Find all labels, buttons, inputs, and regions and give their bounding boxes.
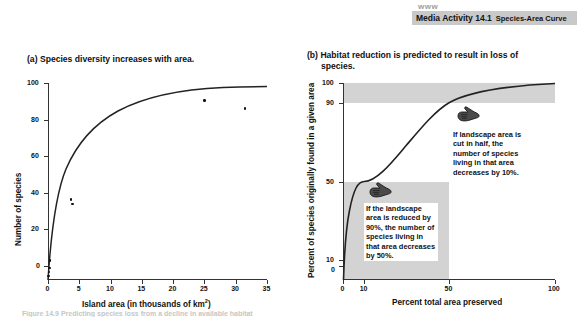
media-activity-title: Media Activity 14.1 <box>416 13 492 23</box>
panel-a-ytick-20: 20 <box>31 225 39 232</box>
panel-b-plot-area: If landscape area is cut in half, the nu… <box>343 83 555 280</box>
panel-a-caption: (a) Species diversity increases with are… <box>27 54 277 65</box>
panel-a-caption-text: Species diversity increases with area. <box>40 54 194 64</box>
panel-a-xtick-0: 0 <box>46 285 50 292</box>
panel-b-ytick-0: 0 <box>331 266 335 273</box>
data-point <box>203 99 206 102</box>
pointing-hand-icon <box>367 180 393 200</box>
panel-a-xtick-20: 20 <box>169 285 177 292</box>
panel-a-x-axis-title: Island area (in thousands of km2) <box>82 298 211 309</box>
panel-a-ytick-60: 60 <box>31 152 39 159</box>
panel-b-ytick-10: 10 <box>326 256 334 263</box>
panel-b-xtick-0: 0 <box>341 285 345 292</box>
panel-a-chart: Number of species 100 80 60 40 20 0 <box>0 70 290 317</box>
panel-b-caption-text: Habitat reduction is predicted to result… <box>320 50 518 60</box>
panel-b-label: (b) <box>307 50 318 60</box>
panel-b-chart: Percent of species originally found in a… <box>295 70 577 317</box>
panel-a-xtick-35: 35 <box>263 285 271 292</box>
panel-a-xtick-15: 15 <box>137 285 145 292</box>
panel-a-plot-area <box>48 83 267 280</box>
figure-page: www Media Activity 14.1 Species-Area Cur… <box>0 0 577 317</box>
media-activity-banner: Media Activity 14.1 Species-Area Curve <box>412 11 577 25</box>
www-mark: www <box>418 2 438 11</box>
panel-a-xtick-25: 25 <box>200 285 208 292</box>
panel-b-ytick-50: 50 <box>326 178 334 185</box>
panel-b-ytick-90: 90 <box>326 99 334 106</box>
panel-a-ytick-80: 80 <box>31 116 39 123</box>
panel-a-xtick-10: 10 <box>106 285 114 292</box>
media-activity-subtitle: Species-Area Curve <box>496 14 567 23</box>
pointing-hand-icon <box>455 104 481 124</box>
panel-a-ytick-40: 40 <box>31 189 39 196</box>
figure-bottom-caption: Figure 14.9 Predicting species loss from… <box>22 310 302 317</box>
panel-b-callout-ninety-percent: If the landscape area is reduced by 90%,… <box>364 203 438 261</box>
panel-a-xtick-5: 5 <box>77 285 81 292</box>
panel-b-xtick-100: 100 <box>548 285 560 292</box>
panel-b-xtick-50: 50 <box>445 285 453 292</box>
panel-b-xtick-10: 10 <box>360 285 368 292</box>
panel-a-xtick-30: 30 <box>231 285 239 292</box>
panel-a-curve <box>48 83 267 280</box>
panel-a-ytick-100: 100 <box>27 79 39 86</box>
panel-b-ytick-100: 100 <box>322 79 334 86</box>
panel-a-y-axis-title: Number of species <box>14 173 23 246</box>
panel-b-y-axis-title: Percent of species originally found in a… <box>307 83 316 278</box>
panel-a-label: (a) <box>27 54 38 64</box>
panel-b-x-axis-title: Percent total area preserved <box>392 298 502 307</box>
panel-a-ytick-0: 0 <box>36 262 40 269</box>
panel-b-caption: (b) Habitat reduction is predicted to re… <box>307 50 532 72</box>
panel-b-callout-half-area: If landscape area is cut in half, the nu… <box>451 129 525 178</box>
data-point <box>49 259 52 262</box>
